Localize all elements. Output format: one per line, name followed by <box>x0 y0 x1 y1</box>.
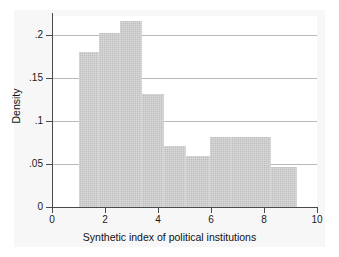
x-axis-tick <box>211 208 212 213</box>
y-axis-tick-label: .1 <box>35 116 43 126</box>
x-axis-title: Synthetic index of political institution… <box>0 231 339 243</box>
x-axis-tick <box>158 208 159 213</box>
y-axis-tick <box>46 78 52 79</box>
x-axis-tick-label: 10 <box>305 214 329 225</box>
y-axis-tick-label: .05 <box>29 159 43 169</box>
y-axis-tick-label: .15 <box>29 73 43 83</box>
x-axis-tick <box>317 208 318 213</box>
y-axis-tick <box>46 164 52 165</box>
histogram-bar <box>231 137 271 207</box>
x-axis-line <box>52 207 318 208</box>
y-axis-line <box>52 13 53 208</box>
y-axis-tick-label: 0 <box>37 202 43 212</box>
plot-area <box>52 16 317 207</box>
x-axis-tick <box>264 208 265 213</box>
x-axis-tick <box>105 208 106 213</box>
histogram-bar <box>164 146 186 207</box>
x-axis-tick <box>52 208 53 213</box>
histogram-bar <box>210 137 231 207</box>
y-axis-tick <box>46 35 52 36</box>
histogram-bar <box>79 52 99 207</box>
histogram-bar <box>142 94 164 207</box>
histogram-figure: 0 .05 .1 .15 .2 0 2 4 6 8 10 Synthetic i… <box>0 0 339 257</box>
y-axis-tick <box>46 121 52 122</box>
x-axis-tick-label: 6 <box>199 214 223 225</box>
y-axis-tick-label: .2 <box>35 30 43 40</box>
histogram-bar <box>120 21 142 207</box>
histogram-bar <box>271 167 297 207</box>
x-axis-tick-label: 4 <box>146 214 170 225</box>
histogram-bar <box>99 33 120 207</box>
x-axis-tick-label: 8 <box>252 214 276 225</box>
x-axis-tick-label: 2 <box>93 214 117 225</box>
x-axis-tick-label: 0 <box>40 214 64 225</box>
histogram-bar <box>186 156 210 207</box>
gridline-y <box>52 35 317 36</box>
y-axis-title: Density <box>10 66 22 146</box>
